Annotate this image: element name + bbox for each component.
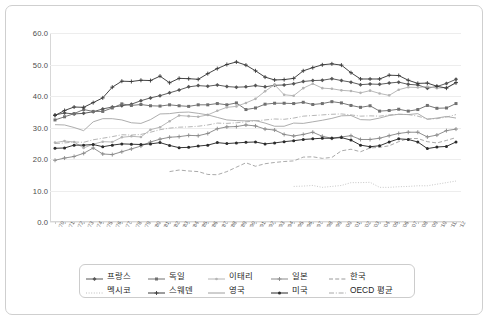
data-point-marker (455, 140, 458, 143)
legend-item-미국[interactable]: 미국 (270, 282, 328, 296)
legend-label: 독일 (169, 269, 185, 281)
x-axis-tick-mark (217, 222, 218, 224)
legend-item-일본[interactable]: 일본 (270, 268, 328, 282)
data-point-marker (445, 145, 448, 148)
data-point-marker (368, 82, 372, 86)
x-axis-tick-mark (294, 222, 295, 224)
data-point-marker (130, 104, 133, 107)
x-axis-tick-mark (170, 222, 171, 224)
x-axis-tick-mark (74, 222, 75, 224)
data-point-marker (120, 142, 123, 145)
legend-swatch-icon (328, 270, 347, 280)
x-axis-tick-mark (65, 222, 66, 224)
data-point-marker (121, 136, 124, 139)
data-point-marker (73, 112, 76, 115)
x-axis-tick-mark (418, 222, 419, 224)
legend-item-스웨덴[interactable]: 스웨덴 (147, 282, 207, 296)
x-axis-tick-mark (332, 222, 333, 224)
x-axis-tick-mark (179, 222, 180, 224)
data-point-marker (444, 129, 448, 133)
data-point-marker (225, 125, 229, 129)
x-axis-tick-mark (275, 222, 276, 224)
data-point-marker (54, 147, 57, 150)
data-point-marker (321, 87, 324, 90)
data-point-marker (63, 146, 66, 149)
data-point-marker (177, 88, 181, 92)
data-point-marker (435, 107, 438, 110)
data-point-marker (407, 138, 410, 141)
data-point-marker (282, 132, 286, 136)
y-axis-tick-label: 50.0 (33, 60, 48, 69)
data-point-marker (216, 110, 219, 113)
data-point-marker (139, 99, 143, 103)
plot-area (50, 33, 461, 222)
data-point-marker (154, 291, 158, 295)
legend-item-한국[interactable]: 한국 (328, 268, 409, 282)
data-point-marker (63, 140, 66, 143)
data-point-marker (426, 147, 429, 150)
data-point-marker (359, 106, 362, 109)
legend-item-OECD 평균[interactable]: OECD 평균 (328, 282, 409, 296)
data-point-marker (359, 83, 363, 87)
data-point-marker (225, 103, 228, 106)
data-point-marker (369, 89, 372, 92)
x-axis-tick-mark (236, 222, 237, 224)
data-point-marker (139, 143, 142, 146)
x-axis-tick-mark (141, 222, 142, 224)
legend-swatch-icon (207, 270, 226, 280)
data-point-marker (302, 138, 305, 141)
data-point-marker (339, 79, 343, 83)
data-point-marker (407, 110, 410, 113)
data-point-marker (330, 100, 333, 103)
legend-item-프랑스[interactable]: 프랑스 (85, 268, 147, 282)
legend-item-멕시코[interactable]: 멕시코 (85, 282, 147, 296)
data-point-marker (187, 146, 190, 149)
data-point-marker (388, 140, 391, 143)
data-point-marker (196, 84, 200, 88)
data-point-marker (168, 144, 171, 147)
data-point-marker (330, 77, 334, 81)
data-point-marker (349, 80, 353, 84)
data-point-marker (159, 105, 162, 108)
legend-item-이태리[interactable]: 이태리 (207, 268, 271, 282)
data-point-marker (206, 72, 210, 76)
data-point-marker (197, 115, 200, 118)
data-point-marker (110, 153, 114, 157)
legend-item-영국[interactable]: 영국 (207, 282, 271, 296)
data-point-marker (426, 85, 429, 88)
y-axis: 60.050.040.030.020.010.00.0 (18, 0, 48, 326)
data-point-marker (73, 144, 76, 147)
data-point-marker (206, 84, 210, 88)
series-1 (54, 100, 458, 121)
data-point-marker (301, 80, 305, 84)
data-point-marker (283, 140, 286, 143)
data-point-marker (387, 134, 391, 138)
x-axis-tick-mark (399, 222, 400, 224)
data-point-marker (129, 147, 133, 151)
x-axis-tick-mark (93, 222, 94, 224)
x-axis-tick-mark (351, 222, 352, 224)
data-point-marker (197, 103, 200, 106)
data-point-marker (331, 87, 334, 90)
legend-item-독일[interactable]: 독일 (147, 268, 207, 282)
x-axis-tick-mark (284, 222, 285, 224)
data-point-marker (387, 73, 391, 77)
legend-label: 스웨덴 (169, 283, 193, 295)
data-point-marker (282, 78, 286, 82)
legend-swatch-icon (147, 284, 166, 294)
data-point-marker (273, 83, 276, 86)
series-line (55, 83, 456, 148)
data-point-marker (54, 118, 57, 121)
data-point-marker (206, 131, 210, 135)
y-axis-tick-label: 10.0 (33, 186, 48, 195)
data-point-marker (378, 82, 382, 86)
data-point-marker (140, 136, 143, 139)
data-point-marker (378, 136, 382, 140)
x-axis-tick-mark (103, 222, 104, 224)
data-point-marker (72, 105, 76, 109)
data-point-marker (425, 135, 429, 139)
x-axis-tick-mark (122, 222, 123, 224)
x-axis-tick-mark (437, 222, 438, 224)
legend-label: OECD 평균 (350, 283, 393, 295)
data-point-marker (91, 101, 95, 105)
